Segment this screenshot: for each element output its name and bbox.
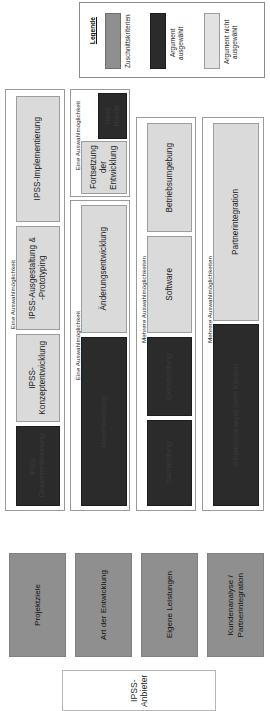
- node-label: Änderungsentwicklung: [99, 227, 109, 310]
- node-fortsetzung-der-entwicklung[interactable]: Fortsetzung der Entwicklung: [81, 141, 127, 194]
- node-dienstleistung[interactable]: Dienstleistung: [147, 337, 192, 416]
- group-label-kundenanalyse-partnerintegration: Mehrere Auswahlmöglichkeiten: [206, 256, 213, 343]
- root-node-ipss-anbieter[interactable]: IPSS- Anbieter: [62, 670, 216, 711]
- node-ipss-implementierung[interactable]: IPSS-Implementierung: [16, 96, 60, 222]
- criterion-label: Art der Entwicklung: [99, 570, 109, 640]
- legend-label-selected: Argument ausgewählt: [169, 17, 184, 69]
- node-ipss-gesamtentwicklung[interactable]: IPSS- Gesamtentwicklung: [16, 426, 60, 506]
- group-label-projektziele: Eine Auswahlmöglichkeit: [9, 260, 16, 329]
- node-label: Software: [165, 268, 175, 301]
- node-situationsanalyse-beim-kunden[interactable]: Situationsanalyse beim Kunden: [213, 324, 259, 506]
- legend-box: Legende Zuschnittskriterien Argument aus…: [79, 2, 265, 78]
- node-ipss-konzeptentwicklung[interactable]: IPSS- Konzeptentwicklung: [16, 334, 60, 422]
- node-label: Fortsetzung der Entwicklung: [89, 142, 119, 193]
- node-label: Situationsanalyse beim Kunden: [232, 364, 241, 466]
- legend-swatch-criterion: [105, 13, 121, 69]
- node-label: Betriebsumgebung: [165, 143, 175, 213]
- legend-label-criterion: Zuschnittskriterien: [124, 10, 132, 72]
- node-label: IPSS-Ausgestaltung & -Prototyping: [28, 237, 48, 319]
- node-label: Sachleistung: [165, 442, 174, 484]
- group-label-art-der-entwicklung: Eine Auswahlmöglichkeit: [74, 311, 81, 380]
- node-label: IPSS-Implementierung: [33, 117, 43, 200]
- group-label-eigene-leistungen: Mehrere Auswahlmöglichkeiten: [140, 256, 147, 343]
- node-label: Neue Runde: [104, 105, 122, 126]
- criterion-art-der-entwicklung[interactable]: Art der Entwicklung: [75, 553, 132, 657]
- criterion-label: Projektziele: [33, 584, 43, 626]
- criterion-kundenanalyse-partnerintegration[interactable]: Kundenanalyse / Partnerintegration: [207, 553, 264, 657]
- legend-title: Legende: [89, 17, 96, 44]
- node-label: Partnerintegration: [231, 189, 241, 255]
- legend-swatch-unselected: [204, 13, 220, 69]
- node-neuentwicklung[interactable]: Neuentwicklung: [81, 337, 127, 506]
- node-sachleistung[interactable]: Sachleistung: [147, 420, 192, 506]
- node-software[interactable]: Software: [147, 236, 192, 333]
- node-label: Dienstleistung: [165, 354, 174, 400]
- node-ipss-ausgestaltung-prototyping[interactable]: IPSS-Ausgestaltung & -Prototyping: [16, 226, 60, 330]
- node-partnerintegration[interactable]: Partnerintegration: [213, 123, 259, 321]
- node-label: IPSS- Gesamtentwicklung: [29, 434, 47, 498]
- node-aenderungsentwicklung[interactable]: Änderungsentwicklung: [81, 205, 127, 333]
- node-betriebsumgebung[interactable]: Betriebsumgebung: [147, 123, 192, 232]
- group-label-fortsetzung-subgroup: Eine Auswahlmöglichkeit: [74, 101, 81, 170]
- criterion-eigene-leistungen[interactable]: Eigene Leistungen: [141, 553, 198, 657]
- node-label: Neuentwicklung: [100, 396, 109, 447]
- criterion-label: Kundenanalyse / Partnerintegration: [226, 573, 246, 638]
- criterion-label: Eigene Leistungen: [165, 571, 175, 638]
- node-neue-runde[interactable]: Neue Runde: [98, 93, 127, 139]
- criterion-projektziele[interactable]: Projektziele: [9, 553, 66, 657]
- legend-swatch-selected: [150, 13, 166, 69]
- legend-label-unselected: Argument nicht ausgewählt: [223, 13, 238, 71]
- root-node-label: IPSS- Anbieter: [129, 671, 150, 710]
- node-label: IPSS- Konzeptentwicklung: [28, 341, 48, 415]
